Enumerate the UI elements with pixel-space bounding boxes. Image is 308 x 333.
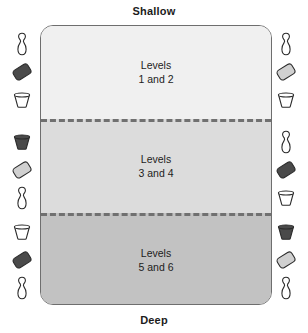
zone-mid: Levels 3 and 4 <box>41 119 271 213</box>
kickboard-icon <box>268 156 304 184</box>
zone-divider-upper <box>41 119 271 122</box>
zone-mid-label-line1: Levels <box>41 152 271 166</box>
equipment-group-left-top <box>4 30 40 114</box>
bucket-icon <box>4 128 40 156</box>
bucket-icon <box>268 184 304 212</box>
kickboard-icon <box>268 246 304 274</box>
pool-level-diagram: Shallow Levels 1 and 2 Levels 3 and 4 Le… <box>0 0 308 333</box>
kickboard-icon <box>268 58 304 86</box>
pool-outline: Levels 1 and 2 Levels 3 and 4 Levels 5 a… <box>40 25 272 305</box>
equipment-group-right-top <box>268 30 304 114</box>
zone-deep: Levels 5 and 6 <box>41 213 271 305</box>
zone-shallow-label-line2: 1 and 2 <box>41 72 271 86</box>
bowling-pin-icon <box>268 128 304 156</box>
bowling-pin-icon <box>4 30 40 58</box>
equipment-group-left-bottom <box>4 218 40 302</box>
deep-end-caption: Deep <box>0 314 308 326</box>
zone-divider-lower <box>41 213 271 216</box>
bucket-icon <box>4 218 40 246</box>
bucket-icon <box>268 218 304 246</box>
bowling-pin-icon <box>268 30 304 58</box>
equipment-group-right-mid <box>268 128 304 212</box>
equipment-group-right-bottom <box>268 218 304 302</box>
zone-deep-label-line1: Levels <box>41 246 271 260</box>
bucket-icon <box>268 86 304 114</box>
bowling-pin-icon <box>268 274 304 302</box>
shallow-end-caption: Shallow <box>0 5 308 17</box>
kickboard-icon <box>4 58 40 86</box>
bowling-pin-icon <box>4 184 40 212</box>
zone-deep-label: Levels 5 and 6 <box>41 246 271 274</box>
bowling-pin-icon <box>4 274 40 302</box>
zone-deep-label-line2: 5 and 6 <box>41 260 271 274</box>
zone-shallow-label-line1: Levels <box>41 58 271 72</box>
zone-shallow-label: Levels 1 and 2 <box>41 58 271 86</box>
kickboard-icon <box>4 156 40 184</box>
zone-shallow: Levels 1 and 2 <box>41 26 271 119</box>
equipment-group-left-mid <box>4 128 40 212</box>
bucket-icon <box>4 86 40 114</box>
zone-mid-label: Levels 3 and 4 <box>41 152 271 180</box>
zone-mid-label-line2: 3 and 4 <box>41 166 271 180</box>
kickboard-icon <box>4 246 40 274</box>
